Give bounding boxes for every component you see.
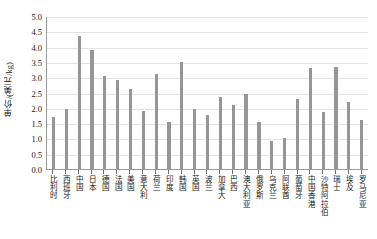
x-tick-mark [335,170,336,174]
bar[interactable] [322,112,325,169]
x-label-slot: 美国 [123,175,136,237]
x-label-slot: 德国 [98,175,111,237]
bar-slot [317,17,330,169]
x-label-slot: 葡萄牙 [291,175,304,237]
x-label-slot: 加拿大 [213,175,226,237]
x-tick-mark [271,170,272,174]
x-axis-ticks [46,170,368,174]
x-tick-slot [59,170,72,174]
bar[interactable] [244,94,247,169]
x-tick-label: 美国 [125,175,134,191]
bar[interactable] [90,50,93,169]
bar[interactable] [206,115,209,169]
x-tick-label: 法国 [113,175,122,191]
bar[interactable] [167,122,170,169]
y-tick-label: 1.5 [31,119,42,129]
x-tick-slot [239,170,252,174]
x-tick-mark [129,170,130,174]
y-tick-label: 2.0 [31,104,42,114]
x-tick-mark [78,170,79,174]
x-tick-mark [103,170,104,174]
bar[interactable] [116,80,119,169]
x-tick-slot [85,170,98,174]
x-tick-mark [155,170,156,174]
y-tick-label: 0.0 [31,165,42,175]
bar-slot [124,17,137,169]
x-tick-mark [232,170,233,174]
bar-slot [265,17,278,169]
bar-slot [227,17,240,169]
bar[interactable] [334,67,337,170]
x-axis-tick-labels: 比利时西班牙中国日本德国法国美国意大利荷兰印度韩国英国波兰加拿大巴西澳大利亚俄罗… [46,175,368,237]
x-tick-mark [181,170,182,174]
x-label-slot: 比利时 [46,175,59,237]
bar-slot [137,17,150,169]
y-tick-label: 3.0 [31,73,42,83]
x-tick-mark [322,170,323,174]
bar[interactable] [65,109,68,169]
x-tick-label: 意大利 [138,175,147,200]
x-tick-mark [297,170,298,174]
bar[interactable] [180,62,183,169]
x-label-slot: 澳大利亚 [239,175,252,237]
x-tick-slot [355,170,368,174]
x-label-slot: 意大利 [136,175,149,237]
x-label-slot: 中国香港 [304,175,317,237]
bar[interactable] [232,105,235,169]
x-tick-label: 中国 [74,175,83,191]
x-tick-label: 波兰 [203,175,212,191]
x-tick-slot [110,170,123,174]
bar-chart: 单价/(美元/kg) 5.04.54.03.53.02.52.01.51.00.… [0,0,377,239]
x-label-slot: 法国 [110,175,123,237]
x-label-slot: 荷兰 [149,175,162,237]
x-tick-mark [309,170,310,174]
bar[interactable] [142,111,145,169]
x-tick-mark [219,170,220,174]
x-tick-mark [194,170,195,174]
bar-slot [253,17,266,169]
bar[interactable] [193,109,196,169]
bar[interactable] [155,74,158,169]
bar[interactable] [309,68,312,169]
bar[interactable] [78,36,81,169]
bar-slot [163,17,176,169]
bar[interactable] [347,102,350,169]
x-tick-label: 中国香港 [306,175,315,208]
x-label-slot: 罗马尼亚 [355,175,368,237]
x-tick-slot [98,170,111,174]
bar-slot [342,17,355,169]
x-tick-slot [329,170,342,174]
x-tick-label: 俄罗斯 [254,175,263,200]
x-label-slot: 巴西 [226,175,239,237]
bar[interactable] [219,97,222,169]
x-label-slot: 波兰 [201,175,214,237]
bar[interactable] [283,138,286,169]
bar[interactable] [296,99,299,169]
x-tick-label: 比利时 [48,175,57,200]
x-tick-mark [65,170,66,174]
bar-slot [355,17,368,169]
bar[interactable] [52,117,55,169]
bars-container [47,17,368,169]
bar[interactable] [360,120,363,169]
x-tick-slot [291,170,304,174]
x-tick-mark [245,170,246,174]
bar[interactable] [129,89,132,169]
bar-slot [47,17,60,169]
x-tick-mark [348,170,349,174]
bar[interactable] [103,76,106,169]
x-tick-label: 日本 [87,175,96,191]
y-axis-tick-labels: 5.04.54.03.53.02.52.01.51.00.50.0 [14,0,44,239]
x-tick-mark [116,170,117,174]
x-label-slot: 瑞士 [329,175,342,237]
x-tick-label: 英国 [190,175,199,191]
bar[interactable] [257,122,260,169]
x-tick-label: 巴西 [228,175,237,191]
bar-slot [278,17,291,169]
bar[interactable] [270,141,273,169]
x-label-slot: 韩国 [175,175,188,237]
x-tick-mark [258,170,259,174]
x-tick-mark [142,170,143,174]
x-tick-label: 阿联酋 [280,175,289,200]
x-tick-label: 澳大利亚 [241,175,250,208]
